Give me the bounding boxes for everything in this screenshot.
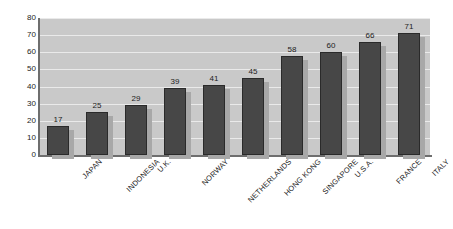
bar-group: 66 xyxy=(359,38,387,155)
bars-layer: 17252939414558606671 xyxy=(40,18,430,155)
x-tick-label: ITALY xyxy=(430,157,451,178)
bar-value-label: 25 xyxy=(81,101,113,110)
bar-group: 58 xyxy=(281,52,309,155)
x-tick-label: NORWAY xyxy=(200,157,230,187)
y-tick-label: 80 xyxy=(14,14,36,22)
y-tick-label: 0 xyxy=(14,151,36,159)
bar-group: 17 xyxy=(47,122,75,155)
x-tick-label: NETHERLANDS xyxy=(246,157,293,204)
y-tick-label: 40 xyxy=(14,83,36,91)
x-tick-label: INDONESIA xyxy=(125,157,162,194)
y-tick-label: 10 xyxy=(14,134,36,142)
bar[interactable] xyxy=(86,112,108,155)
x-tick-label: SINGAPORE xyxy=(321,157,360,196)
x-tick-label: JAPAN xyxy=(80,157,104,181)
bar-group: 45 xyxy=(242,74,270,155)
y-tick-label: 50 xyxy=(14,65,36,73)
bar-value-label: 41 xyxy=(198,74,230,83)
bar[interactable] xyxy=(242,78,264,155)
bar-group: 25 xyxy=(86,108,114,155)
y-tick-label: 20 xyxy=(14,117,36,125)
bar[interactable] xyxy=(281,56,303,155)
bar[interactable] xyxy=(203,85,225,155)
bar[interactable] xyxy=(398,33,420,155)
bar[interactable] xyxy=(164,88,186,155)
x-tick-label: FRANCE xyxy=(394,157,423,186)
bar-value-label: 66 xyxy=(354,31,386,40)
bar-group: 29 xyxy=(125,101,153,155)
bar-value-label: 39 xyxy=(159,77,191,86)
bar-value-label: 60 xyxy=(315,41,347,50)
bar[interactable] xyxy=(125,105,147,155)
bar-value-label: 29 xyxy=(120,94,152,103)
y-axis: 80706050403020100 xyxy=(14,11,36,157)
bar-value-label: 17 xyxy=(42,115,74,124)
bar-value-label: 45 xyxy=(237,67,269,76)
bar-group: 71 xyxy=(398,29,426,155)
y-tick-label: 70 xyxy=(14,31,36,39)
bar-chart: 80706050403020100 17252939414558606671 J… xyxy=(0,0,453,229)
bar[interactable] xyxy=(320,52,342,155)
bar-group: 39 xyxy=(164,84,192,155)
bar-group: 41 xyxy=(203,81,231,155)
bar[interactable] xyxy=(359,42,381,155)
y-tick-label: 30 xyxy=(14,100,36,108)
y-tick-label: 60 xyxy=(14,48,36,56)
bar-group: 60 xyxy=(320,48,348,155)
bar-value-label: 58 xyxy=(276,45,308,54)
x-axis-category-labels: JAPANINDONESIAU.K.NORWAYNETHERLANDSHONG … xyxy=(40,157,440,227)
bar-value-label: 71 xyxy=(393,22,425,31)
bar[interactable] xyxy=(47,126,69,155)
